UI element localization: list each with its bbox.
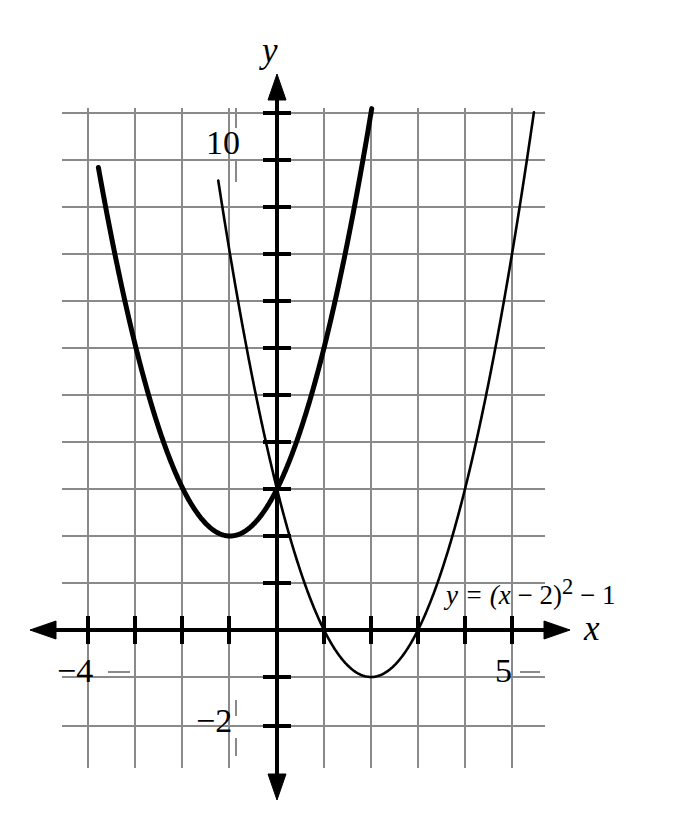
x-axis-label: x bbox=[584, 611, 600, 646]
x-tick-label-5: 5 bbox=[495, 654, 512, 688]
coordinate-plane-svg bbox=[0, 0, 685, 834]
equation-annotation: y = (x − 2)2 − 1 bbox=[446, 576, 615, 609]
x-tick-label-minus-4: −4 bbox=[57, 654, 93, 688]
y-axis-arrow-up bbox=[268, 74, 286, 100]
x-axis-arrow-left bbox=[30, 621, 56, 639]
equation-part-prefix: y = ( bbox=[446, 580, 499, 610]
y-axis-label: y bbox=[262, 33, 278, 68]
equation-part-variable: x bbox=[499, 580, 511, 610]
equation-part-suffix: − 1 bbox=[573, 580, 615, 610]
grid-lines bbox=[62, 108, 545, 768]
y-tick-label-10: 10 bbox=[206, 126, 240, 160]
y-axis-arrow-down bbox=[268, 774, 286, 800]
y-tick-label-minus-2: −2 bbox=[196, 704, 232, 738]
graph-figure: y x 10 −2 −4 5 y = (x − 2)2 − 1 bbox=[0, 0, 685, 834]
equation-part-mid: − 2) bbox=[511, 580, 562, 610]
equation-part-exponent: 2 bbox=[562, 574, 573, 599]
x-axis-arrow-right bbox=[544, 621, 570, 639]
